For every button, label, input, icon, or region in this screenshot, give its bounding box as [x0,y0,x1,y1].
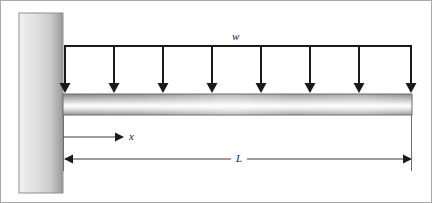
load-arrow [256,46,267,93]
length-label: L [233,153,245,164]
load-intensity-label: w [232,31,239,42]
cantilever-beam-figure: w x L [0,0,432,203]
wall-body [19,13,63,193]
fixed-support-wall [19,13,63,193]
x-dimension [63,133,124,142]
x-dimension-arrowhead [115,133,124,142]
L-dimension-arrowhead-right [403,155,412,164]
load-arrow [109,46,120,93]
distance-label: x [129,131,134,142]
diagram-canvas [1,1,432,203]
beam-sheen [63,94,412,115]
load-arrow [406,46,417,93]
load-arrow [207,46,218,93]
distributed-load-group [60,46,417,93]
cantilever-beam [63,94,412,115]
L-dimension-arrowhead-left [64,155,73,164]
load-arrow [158,46,169,93]
load-arrow [354,46,365,93]
load-arrow [305,46,316,93]
